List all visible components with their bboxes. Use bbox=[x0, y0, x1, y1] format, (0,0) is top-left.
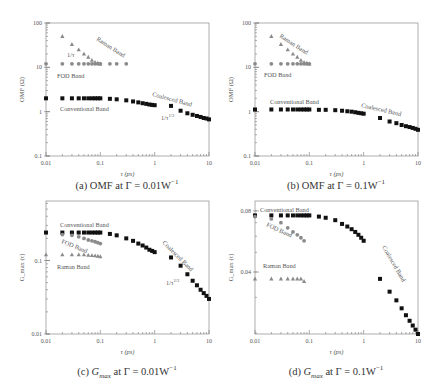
data-point bbox=[82, 62, 86, 66]
data-point bbox=[286, 107, 290, 111]
data-point bbox=[388, 120, 392, 124]
data-point bbox=[253, 215, 257, 219]
data-point bbox=[60, 233, 64, 237]
data-point bbox=[279, 42, 283, 46]
data-point bbox=[60, 252, 64, 256]
data-point bbox=[195, 114, 199, 118]
data-point bbox=[378, 277, 382, 281]
data-point bbox=[416, 332, 420, 336]
data-point bbox=[411, 324, 415, 328]
data-point bbox=[60, 34, 64, 38]
caption-prefix: (c) bbox=[77, 366, 89, 377]
data-point bbox=[44, 96, 48, 100]
data-point bbox=[378, 116, 382, 120]
data-point bbox=[317, 108, 321, 112]
y-tick-label: 10 bbox=[245, 64, 251, 70]
data-point bbox=[86, 96, 90, 100]
data-point bbox=[82, 231, 86, 235]
x-tick-label: 0.01 bbox=[41, 338, 52, 344]
data-point bbox=[124, 236, 128, 240]
data-point bbox=[136, 242, 140, 246]
caption-suffix: at Γ = 0.1W bbox=[327, 180, 377, 191]
data-point bbox=[307, 62, 311, 66]
data-point bbox=[77, 252, 81, 256]
data-point bbox=[345, 109, 349, 113]
data-point bbox=[86, 55, 90, 59]
data-point bbox=[108, 232, 112, 236]
caption-d: (d) Gmax at Γ = 0.1W−1 bbox=[227, 364, 436, 380]
x-tick-label: 10 bbox=[415, 338, 421, 344]
data-point bbox=[70, 252, 74, 256]
x-tick-label: 1 bbox=[362, 338, 365, 344]
annotation-label: Coalesced Band bbox=[381, 244, 408, 284]
annotation-label: Raman Band bbox=[95, 35, 127, 59]
data-point bbox=[77, 96, 81, 100]
caption-b: (b) OMF at Γ = 0.1W−1 bbox=[227, 178, 436, 191]
data-point bbox=[77, 47, 81, 51]
annotation-label: FOD Band bbox=[57, 72, 85, 79]
data-point bbox=[362, 239, 366, 243]
data-point bbox=[98, 62, 102, 66]
annotation-label: Conventional Band bbox=[60, 221, 110, 228]
caption-subscript: max bbox=[99, 372, 111, 380]
data-point bbox=[333, 108, 337, 112]
data-point bbox=[108, 62, 112, 66]
x-axis-label: τ (ps) bbox=[120, 348, 134, 356]
data-point bbox=[77, 231, 81, 235]
data-point bbox=[191, 279, 195, 283]
data-point bbox=[324, 216, 328, 220]
data-point bbox=[70, 62, 74, 66]
data-point bbox=[179, 109, 183, 113]
data-point bbox=[195, 283, 199, 287]
data-point bbox=[70, 96, 74, 100]
x-tick-label: 0.1 bbox=[97, 338, 105, 344]
annotation-label: Conventional Band bbox=[260, 206, 310, 213]
x-tick-label: 0.01 bbox=[41, 160, 52, 166]
y-tick-label: 0.1 bbox=[35, 153, 43, 159]
annotation-label: 1/τ2/3 bbox=[166, 278, 180, 286]
data-point bbox=[269, 213, 273, 217]
data-point bbox=[60, 96, 64, 100]
data-point bbox=[82, 236, 86, 240]
data-point bbox=[295, 233, 299, 237]
plot-frame bbox=[46, 23, 209, 156]
annotation-label: Raman Band bbox=[263, 262, 297, 269]
data-point bbox=[404, 124, 408, 128]
caption-a: (a) OMF at Γ = 0.01W−1 bbox=[18, 178, 236, 191]
data-point bbox=[86, 231, 90, 235]
data-point bbox=[207, 297, 211, 301]
plot-frame bbox=[255, 23, 418, 156]
data-point bbox=[82, 96, 86, 100]
caption-subscript: max bbox=[311, 372, 323, 380]
y-tick-label: 1 bbox=[248, 109, 251, 115]
caption-prefix: (a) bbox=[76, 180, 88, 191]
data-point bbox=[253, 62, 257, 66]
data-point bbox=[333, 218, 337, 222]
caption-prefix: (b) bbox=[287, 180, 299, 191]
data-point bbox=[44, 62, 48, 66]
data-point bbox=[295, 107, 299, 111]
caption-prefix: (d) bbox=[289, 366, 301, 377]
data-point bbox=[82, 52, 86, 56]
series-conventional-band bbox=[253, 107, 366, 115]
y-axis-label: G_max (τ) bbox=[18, 254, 26, 282]
caption-exponent: −1 bbox=[169, 364, 176, 372]
data-point bbox=[191, 113, 195, 117]
caption-quantity: G bbox=[304, 366, 312, 377]
data-point bbox=[299, 58, 303, 62]
x-tick-label: 1 bbox=[362, 160, 365, 166]
x-tick-label: 0.1 bbox=[97, 160, 105, 166]
y-tick-label: 0.04 bbox=[241, 269, 252, 275]
plots-canvas: 0.010.1110τ (ps)0.1110100OMF (Ω)Raman Ba… bbox=[0, 0, 436, 388]
data-point bbox=[324, 108, 328, 112]
caption-suffix: at Γ = 0.01W bbox=[113, 366, 169, 377]
series-raman-band bbox=[44, 252, 103, 258]
data-point bbox=[70, 42, 74, 46]
series-fod-band bbox=[253, 62, 311, 66]
data-point bbox=[317, 215, 321, 219]
data-point bbox=[86, 253, 90, 257]
data-point bbox=[185, 111, 189, 115]
data-point bbox=[291, 277, 295, 281]
chart-panel-a: 0.010.1110τ (ps)0.1110100OMF (Ω)Raman Ba… bbox=[18, 20, 212, 178]
caption-exponent: −1 bbox=[378, 178, 385, 186]
